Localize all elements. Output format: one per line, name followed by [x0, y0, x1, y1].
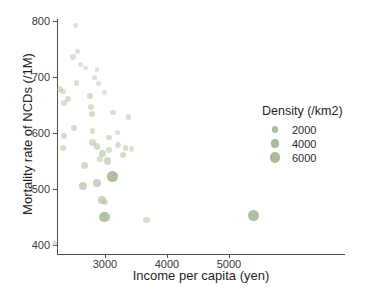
legend-label: 4000	[288, 138, 316, 150]
data-point	[89, 111, 96, 118]
data-point	[115, 142, 121, 148]
y-axis-title: Mortality rate of NCDs (/1M)	[21, 34, 35, 234]
data-point	[71, 125, 77, 131]
data-point	[94, 143, 101, 150]
legend-key	[262, 126, 288, 132]
legend-label: 2000	[288, 124, 316, 136]
data-point	[97, 156, 103, 162]
data-point	[52, 241, 57, 246]
data-point	[75, 49, 80, 54]
data-point	[73, 23, 78, 28]
legend-entry: 4000	[262, 137, 366, 150]
data-point	[110, 110, 115, 115]
data-point	[104, 157, 111, 164]
data-point	[92, 75, 98, 81]
data-point	[102, 90, 107, 95]
legend-key	[262, 152, 288, 163]
data-point	[74, 80, 80, 86]
data-point	[126, 114, 132, 120]
legend-bullet-icon	[272, 126, 278, 132]
data-point	[60, 145, 66, 151]
legend-title: Density (/km2)	[262, 104, 366, 118]
legend-bullet-icon	[271, 139, 280, 148]
legend-entry: 2000	[262, 123, 366, 136]
data-point	[61, 100, 67, 106]
data-point	[78, 62, 83, 67]
data-point	[83, 66, 88, 71]
data-point	[88, 104, 94, 110]
data-point	[106, 147, 112, 153]
data-point	[120, 152, 126, 158]
data-point	[81, 162, 88, 169]
data-point	[99, 212, 110, 223]
data-point	[129, 146, 135, 152]
legend-entries: 200040006000	[262, 123, 366, 164]
data-point	[143, 217, 149, 223]
data-point	[106, 135, 112, 141]
data-point	[61, 133, 67, 139]
data-point	[90, 128, 96, 134]
data-point	[95, 67, 100, 72]
scatter-plot-figure: 400500600700800 300040005000 Income per …	[0, 0, 366, 293]
data-point	[70, 54, 76, 60]
data-point	[93, 179, 101, 187]
data-point	[96, 81, 101, 86]
data-point	[79, 182, 87, 190]
legend-bullet-icon	[270, 152, 281, 163]
data-point	[102, 199, 108, 205]
data-point	[123, 145, 129, 151]
legend-entry: 6000	[262, 151, 366, 164]
legend: Density (/km2) 200040006000	[262, 104, 366, 165]
legend-key	[262, 139, 288, 148]
data-point	[60, 89, 66, 95]
data-point	[115, 130, 121, 136]
legend-label: 6000	[288, 152, 316, 164]
data-point	[248, 210, 259, 221]
data-point	[107, 171, 118, 182]
data-point	[87, 93, 93, 99]
x-axis-title: Income per capita (yen)	[57, 269, 345, 283]
